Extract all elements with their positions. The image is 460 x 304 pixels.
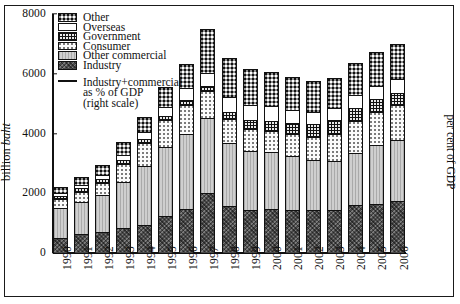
legend-item-industry[interactable]: Industry <box>58 61 198 71</box>
bar-segment-1999-consumer <box>244 130 257 152</box>
x-tick-2004: 2004 <box>348 256 363 302</box>
x-tick-label: 1990 <box>61 246 73 270</box>
bar-segment-2004-other-commercial <box>349 154 362 207</box>
bar-segment-2004-overseas <box>349 96 362 109</box>
bar-segment-1995-other-commercial <box>159 148 172 217</box>
bar-segment-1993-other <box>117 143 130 156</box>
bar-segment-1995-overseas <box>159 108 172 117</box>
bar-2004[interactable] <box>348 63 363 253</box>
bar-1998[interactable] <box>222 58 237 253</box>
bar-1999[interactable] <box>243 69 258 253</box>
bar-segment-2000-other-commercial <box>265 153 278 211</box>
x-tick-label: 2005 <box>376 246 388 270</box>
bar-segment-2002-overseas <box>307 113 320 126</box>
bar-1991[interactable] <box>74 177 89 253</box>
bar-segment-2001-government <box>286 124 299 135</box>
y-tick-label-4000: 4000 <box>22 128 46 140</box>
y-tick-label-0: 0 <box>40 247 46 259</box>
legend-label-industry: Industry <box>83 61 121 71</box>
legend: OtherOverseasGovernmentConsumerOther com… <box>58 13 198 108</box>
x-tick-label: 2006 <box>398 246 410 270</box>
legend-line-entry: Industry+commercial as % of GDP (right s… <box>58 77 198 109</box>
bar-2001[interactable] <box>285 77 300 253</box>
x-tick-2003: 2003 <box>327 256 342 302</box>
figure-container: billion baht per cent of GDP 02000400060… <box>0 0 460 304</box>
bar-segment-1997-other <box>201 30 214 74</box>
bar-1992[interactable] <box>95 165 110 253</box>
bar-segment-1994-consumer <box>138 144 151 167</box>
bar-segment-1998-government <box>223 113 236 120</box>
x-tick-label: 1997 <box>208 246 220 270</box>
bar-2003[interactable] <box>327 78 342 253</box>
bar-segment-2006-other <box>391 45 404 80</box>
bar-segment-1992-consumer <box>96 184 109 196</box>
bar-segment-2001-consumer <box>286 135 299 157</box>
bar-2000[interactable] <box>264 72 279 253</box>
x-tick-label: 1998 <box>229 246 241 270</box>
bar-segment-2005-other <box>370 53 383 87</box>
bar-segment-2001-other <box>286 78 299 111</box>
y-axis-label-italic: baht <box>0 123 13 145</box>
bar-1990[interactable] <box>53 187 68 253</box>
x-tick-label: 1992 <box>103 246 115 270</box>
bar-segment-1998-other <box>223 59 236 98</box>
bar-segment-2003-overseas <box>328 109 341 121</box>
x-tick-1991: 1991 <box>74 256 89 302</box>
legend-swatch-government <box>58 32 77 41</box>
bar-segment-1998-overseas <box>223 98 236 114</box>
x-tick-1997: 1997 <box>200 256 215 302</box>
x-tick-label: 2003 <box>334 246 346 270</box>
bar-segment-2004-consumer <box>349 122 362 153</box>
bar-segment-1997-consumer <box>201 92 214 119</box>
bar-2005[interactable] <box>369 52 384 253</box>
x-tick-2000: 2000 <box>264 256 279 302</box>
x-tick-label: 1996 <box>187 246 199 270</box>
bar-1995[interactable] <box>158 87 173 253</box>
bar-segment-1999-other <box>244 70 257 106</box>
y-axis-label-prefix: billion <box>0 145 13 181</box>
bar-segment-2005-government <box>370 100 383 113</box>
legend-swatch-consumer <box>58 42 77 51</box>
bar-segment-1997-industry <box>201 194 214 253</box>
bar-segment-1999-overseas <box>244 106 257 122</box>
bar-segment-1993-other-commercial <box>117 183 130 230</box>
bar-segment-1994-overseas <box>138 133 151 140</box>
bar-2002[interactable] <box>306 81 321 253</box>
bar-segment-1991-consumer <box>75 193 88 203</box>
x-tick-label: 2002 <box>313 246 325 270</box>
bar-segment-1994-other-commercial <box>138 167 151 226</box>
legend-swatch-industry <box>58 61 77 70</box>
x-tick-1995: 1995 <box>158 256 173 302</box>
bar-segment-1992-other-commercial <box>96 196 109 233</box>
x-tick-2002: 2002 <box>306 256 321 302</box>
legend-swatch-commercial <box>58 51 77 60</box>
bar-segment-2000-other <box>265 73 278 107</box>
x-tick-1993: 1993 <box>116 256 131 302</box>
bar-segment-1999-other-commercial <box>244 152 257 210</box>
bar-segment-2003-government <box>328 121 341 134</box>
bar-segment-1997-overseas <box>201 74 214 87</box>
bar-2006[interactable] <box>390 44 405 253</box>
x-tick-1998: 1998 <box>222 256 237 302</box>
bar-1997[interactable] <box>200 29 215 253</box>
bar-segment-1996-other-commercial <box>180 135 193 210</box>
legend-line-text-3: (right scale) <box>83 97 138 109</box>
legend-item-commercial[interactable]: Other commercial <box>58 51 198 61</box>
bar-segment-2002-other <box>307 82 320 113</box>
bar-segment-1990-other-commercial <box>54 209 67 239</box>
bar-1993[interactable] <box>116 142 131 253</box>
x-tick-label: 1995 <box>166 246 178 270</box>
bar-segment-2004-other <box>349 64 362 96</box>
bar-segment-1995-consumer <box>159 121 172 148</box>
x-tick-label: 1994 <box>145 246 157 270</box>
bar-1994[interactable] <box>137 117 152 253</box>
y-tick-label-2000: 2000 <box>22 188 46 200</box>
bar-segment-2000-overseas <box>265 107 278 121</box>
y-tick-label-6000: 6000 <box>22 68 46 80</box>
bar-segment-2005-consumer <box>370 113 383 146</box>
x-tick-1990: 1990 <box>53 256 68 302</box>
y-tick-label-8000: 8000 <box>22 8 46 20</box>
legend-item-other[interactable]: Other <box>58 13 198 23</box>
bar-segment-2001-other-commercial <box>286 157 299 211</box>
legend-line-swatch <box>58 77 77 86</box>
